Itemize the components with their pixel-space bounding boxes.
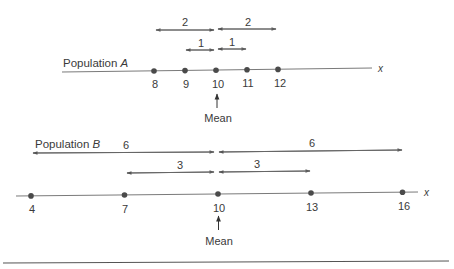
label-a-inner-left: 1 bbox=[198, 37, 204, 49]
tick-a-10: 10 bbox=[212, 78, 224, 90]
dispersion-diagram: 2 2 1 1 Population A x 8 bbox=[0, 0, 454, 269]
label-a-inner-right: 1 bbox=[229, 36, 235, 48]
point-b-4 bbox=[28, 193, 34, 199]
population-a-label: Population A bbox=[63, 57, 129, 69]
arrow-b-left-6-tip bbox=[33, 152, 214, 153]
pop-a-outer-arrows: 2 2 bbox=[156, 16, 276, 30]
population-a-panel: 2 2 1 1 Population A x 8 bbox=[62, 16, 384, 124]
label-a-outer-right: 2 bbox=[245, 16, 251, 28]
tick-a-11: 11 bbox=[242, 77, 253, 89]
point-a-10 bbox=[213, 67, 219, 73]
pop-b-inner-arrows: 3 3 bbox=[127, 158, 310, 173]
point-a-9 bbox=[182, 68, 188, 74]
pop-b-mean-label: Mean bbox=[205, 235, 233, 247]
tick-b-16: 16 bbox=[398, 200, 410, 212]
pop-b-tick-labels: 4 7 10 13 16 bbox=[29, 200, 410, 215]
point-b-10 bbox=[215, 191, 221, 197]
pop-a-mean-label: Mean bbox=[204, 112, 232, 124]
tick-b-10: 10 bbox=[213, 202, 225, 214]
arrow-b-left-3-tip bbox=[127, 172, 214, 173]
arrow-b-right-3-tip bbox=[219, 171, 310, 172]
point-b-7 bbox=[122, 192, 128, 198]
point-a-12 bbox=[275, 67, 281, 73]
pop-a-tick-labels: 8 9 10 11 12 bbox=[152, 77, 286, 90]
tick-b-4: 4 bbox=[29, 203, 35, 215]
tick-b-13: 13 bbox=[306, 201, 318, 213]
pop-a-inner-arrows: 1 1 bbox=[186, 36, 246, 50]
label-b-outer-left: 6 bbox=[123, 139, 129, 151]
bottom-rule-divider bbox=[3, 261, 449, 263]
point-b-16 bbox=[400, 189, 406, 195]
point-b-13 bbox=[308, 190, 314, 196]
label-b-inner-right: 3 bbox=[254, 158, 260, 170]
pop-a-axis-var: x bbox=[377, 63, 384, 74]
tick-a-9: 9 bbox=[183, 78, 189, 90]
population-b-label: Population B bbox=[35, 138, 101, 150]
label-a-outer-left: 2 bbox=[182, 16, 188, 28]
tick-a-8: 8 bbox=[152, 78, 158, 90]
pop-b-points bbox=[28, 189, 405, 198]
label-b-outer-right: 6 bbox=[309, 137, 315, 149]
arrow-b-right-6-tip bbox=[219, 150, 402, 152]
point-a-11 bbox=[244, 67, 250, 73]
tick-a-12: 12 bbox=[274, 77, 286, 89]
population-b-panel: Population B 6 6 3 3 x bbox=[16, 137, 430, 247]
tick-b-7: 7 bbox=[122, 203, 128, 215]
point-a-8 bbox=[151, 68, 157, 74]
label-b-inner-left: 3 bbox=[177, 159, 183, 171]
pop-b-axis-var: x bbox=[423, 187, 430, 198]
